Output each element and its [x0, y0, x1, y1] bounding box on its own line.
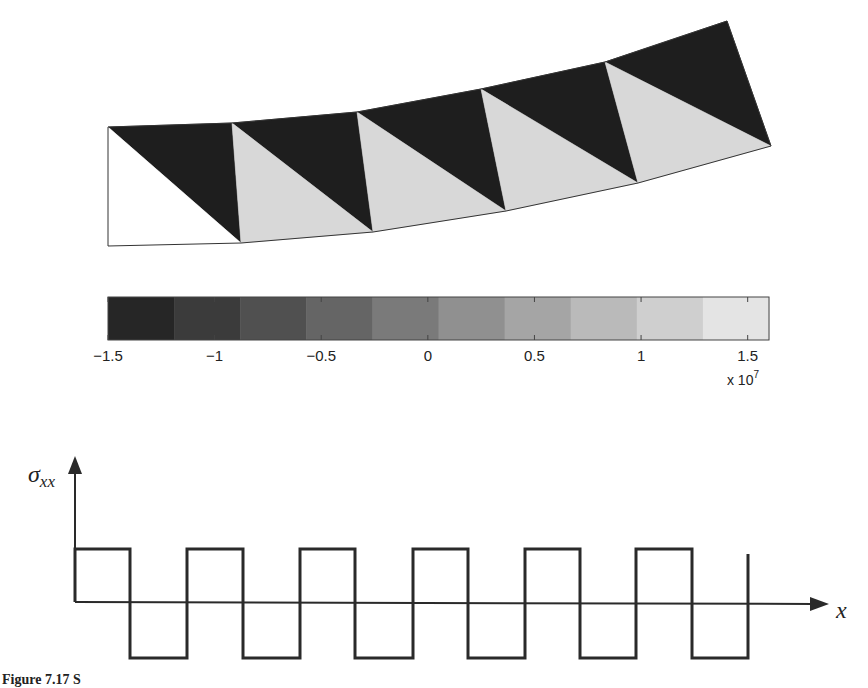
colorbar-band-8 — [571, 297, 638, 340]
colorbar-band-9 — [637, 297, 704, 340]
beam-mesh — [108, 21, 771, 246]
colorbar-tick-label: −0.5 — [306, 347, 336, 364]
colorbar-tick-label: 1 — [637, 347, 645, 364]
colorbar-band-5 — [372, 297, 439, 340]
colorbar-band-3 — [240, 297, 307, 340]
colorbar-band-7 — [505, 297, 572, 340]
colorbar-band-1 — [108, 297, 175, 340]
colorbar-tick-label: 1.5 — [737, 347, 758, 364]
colorbar-tick-label: 0.5 — [524, 347, 545, 364]
colorbar-tick-label: −1 — [206, 347, 223, 364]
x-axis-label: x — [835, 597, 847, 623]
y-axis-label: σxx — [28, 461, 55, 491]
x-axis-arrow-icon — [810, 597, 829, 611]
colorbar-multiplier: x 107 — [727, 369, 759, 388]
colorbar-band-10 — [703, 297, 770, 340]
colorbar-tick-label: −1.5 — [93, 347, 123, 364]
figure-caption: Figure 7.17 S — [2, 672, 81, 688]
colorbar-tick-label: 0 — [424, 347, 432, 364]
y-axis-arrow-icon — [68, 456, 82, 474]
colorbar-band-2 — [174, 297, 241, 340]
colorbar-band-4 — [306, 297, 373, 340]
colorbar-band-6 — [439, 297, 506, 340]
stress-plot: σxxx — [28, 456, 847, 658]
colorbar: −1.5−1−0.500.511.5x 107 — [93, 297, 769, 388]
figure-canvas: −1.5−1−0.500.511.5x 107 σxxx — [0, 0, 868, 688]
